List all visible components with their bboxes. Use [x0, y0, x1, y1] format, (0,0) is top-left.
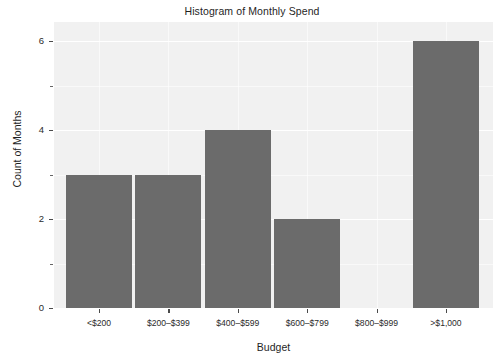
x-tick-label: $400–$599 [198, 318, 278, 328]
y-tick-mark [49, 41, 53, 42]
x-tick-mark [307, 309, 308, 313]
x-tick-label: $600–$799 [267, 318, 347, 328]
y-tick-mark [49, 130, 53, 131]
y-tick-label: 6 [22, 36, 44, 46]
bar [135, 175, 201, 309]
x-tick-mark [446, 309, 447, 313]
y-tick-label: 0 [22, 303, 44, 313]
x-tick-label: <$200 [59, 318, 139, 328]
bar [413, 41, 479, 308]
y-tick-mark-minor [50, 86, 53, 87]
y-tick-mark [49, 219, 53, 220]
x-tick-label: $800–$999 [337, 318, 417, 328]
x-tick-mark [377, 309, 378, 313]
bar [274, 219, 340, 308]
gridline-vertical [377, 22, 378, 308]
y-tick-mark [49, 308, 53, 309]
x-tick-mark [99, 309, 100, 313]
y-tick-mark-minor [50, 175, 53, 176]
x-tick-label: $200–$399 [128, 318, 208, 328]
y-tick-label: 4 [22, 125, 44, 135]
chart-title: Histogram of Monthly Spend [0, 5, 504, 17]
x-tick-mark [238, 309, 239, 313]
bar [205, 130, 271, 308]
y-tick-mark-minor [50, 264, 53, 265]
bar [66, 175, 132, 309]
plot-panel [54, 22, 493, 308]
y-tick-label: 2 [22, 214, 44, 224]
y-axis-title: Count of Months [11, 79, 23, 219]
x-axis-title: Budget [54, 341, 493, 353]
x-tick-mark [168, 309, 169, 313]
histogram-chart: Histogram of Monthly Spend Count of Mont… [0, 0, 504, 361]
x-tick-label: >$1,000 [406, 318, 486, 328]
